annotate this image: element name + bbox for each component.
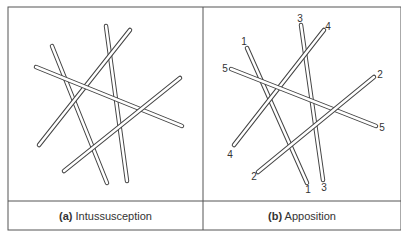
rod-end-label: 2 <box>251 171 257 182</box>
caption-b: (b) Apposition <box>203 203 401 229</box>
caption-a-text: Intussusception <box>76 210 152 222</box>
rod-end-label: 5 <box>379 122 385 133</box>
rod-end-label: 5 <box>222 63 228 74</box>
caption-b-tag: (b) <box>268 210 282 222</box>
rod-end-label: 2 <box>377 69 383 80</box>
rod-end-label: 3 <box>297 13 303 24</box>
caption-b-text: Apposition <box>285 210 336 222</box>
rod-end-label: 4 <box>325 21 331 32</box>
outer-frame <box>8 7 401 230</box>
rod-end-label: 3 <box>321 182 327 193</box>
rod-end-label: 1 <box>305 184 311 195</box>
rod-end-label: 4 <box>227 149 233 160</box>
caption-a-tag: (a) <box>59 210 72 222</box>
rod-end-label: 1 <box>241 36 247 47</box>
caption-a: (a) Intussusception <box>8 203 203 229</box>
rods-group <box>36 25 376 183</box>
